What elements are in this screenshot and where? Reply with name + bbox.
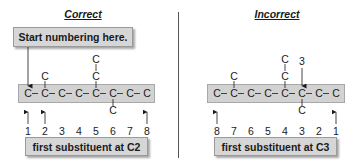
bonds-and-arrows	[0, 0, 355, 168]
